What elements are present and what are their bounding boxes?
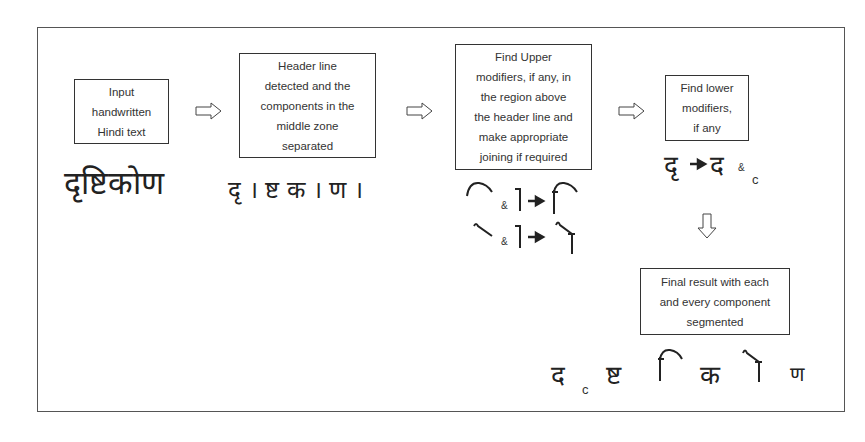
step-header-line: Header line <box>261 56 355 76</box>
step-upper-line: make appropriate <box>474 127 572 147</box>
step-final-line: segmented <box>660 312 771 332</box>
join-arrow-icon <box>528 233 544 241</box>
vertical-bar-glyph <box>513 187 523 213</box>
final-component-shta: ष्ट <box>606 356 621 392</box>
step-upper-line: Find Upper <box>474 47 572 67</box>
step-final-line: and every component <box>660 292 771 312</box>
step-header-line: detected and the <box>261 76 355 96</box>
step-upper-line: modifiers, if any, in <box>474 67 572 87</box>
input-handwritten-word: दृष्टिकोण <box>64 160 164 203</box>
step-upper-line: joining if required <box>474 147 572 167</box>
step-input-line: Hindi text <box>92 122 151 142</box>
upper-modifier-curve-glyph <box>465 180 495 200</box>
step-upper-line: the region above <box>474 87 572 107</box>
lower-result-glyph: द <box>710 146 724 182</box>
step-header-line: middle zone <box>261 116 355 136</box>
ampersand-label: & <box>738 162 745 173</box>
joined-i-matra-glyph <box>550 180 580 216</box>
step-lower-box: Find lower modifiers, if any <box>665 75 749 141</box>
step-header-line: components in the <box>261 96 355 116</box>
arrow-right-icon <box>195 102 223 120</box>
step-lower-line: Find lower <box>680 78 733 98</box>
step-input-line: handwritten <box>92 102 151 122</box>
step-lower-line: if any <box>680 118 733 138</box>
vertical-bar-glyph <box>513 224 523 250</box>
arrow-down-icon <box>697 213 717 239</box>
final-component-da: द <box>551 356 565 392</box>
step-lower-line: modifiers, <box>680 98 733 118</box>
step-final-line: Final result with each <box>660 272 771 292</box>
header-separated-components: दृ । ष्ट क । ण । <box>228 172 363 205</box>
ampersand-label: & <box>501 200 508 211</box>
step-upper-box: Find Upper modifiers, if any, in the reg… <box>455 44 592 170</box>
step-upper-line: the header line and <box>474 107 572 127</box>
join-arrow-icon <box>528 197 544 205</box>
step-input-box: Input handwritten Hindi text <box>74 79 169 144</box>
step-final-box: Final result with each and every compone… <box>640 268 790 335</box>
final-component-i-matra <box>656 347 684 383</box>
upper-modifier-stroke-glyph <box>472 222 498 238</box>
step-header-box: Header line detected and the components … <box>239 53 376 158</box>
step-header-line: separated <box>261 136 355 156</box>
joined-o-matra-glyph <box>553 220 579 256</box>
final-component-na: ण <box>790 360 804 387</box>
lower-source-glyph: दृ <box>664 146 678 182</box>
final-component-lower-mod: c <box>582 382 589 397</box>
final-component-ka: क <box>700 356 720 392</box>
ampersand-label: & <box>501 236 508 247</box>
arrow-right-icon <box>618 102 646 120</box>
final-component-o-matra <box>740 348 766 384</box>
join-arrow-icon <box>690 160 706 168</box>
lower-modifier-label: c <box>752 172 759 187</box>
arrow-right-icon <box>406 102 434 120</box>
step-input-line: Input <box>92 82 151 102</box>
